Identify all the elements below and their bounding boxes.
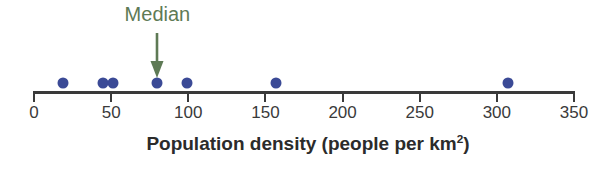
- x-axis-tick: [33, 93, 35, 102]
- x-axis-tick-label: 50: [102, 103, 121, 123]
- x-axis-tick: [342, 93, 344, 102]
- x-axis-tick-label: 350: [560, 103, 588, 123]
- x-axis-title-main: Population density (people per km: [146, 133, 456, 154]
- x-axis-tick: [573, 93, 575, 102]
- down-arrow-icon: [149, 33, 165, 79]
- x-axis-tick-label: 100: [174, 103, 202, 123]
- x-axis-tick: [496, 93, 498, 102]
- data-point: [502, 78, 513, 89]
- x-axis-tick-label: 0: [29, 103, 38, 123]
- median-label: Median: [125, 3, 191, 26]
- x-axis-tick-label: 300: [483, 103, 511, 123]
- x-axis-tick: [264, 93, 266, 102]
- data-point: [271, 78, 282, 89]
- x-axis-line: [33, 91, 575, 94]
- x-axis-tick-label: 200: [328, 103, 356, 123]
- data-point: [181, 78, 192, 89]
- x-axis-tick: [187, 93, 189, 102]
- x-axis-title-tail: ): [463, 133, 469, 154]
- data-point: [107, 78, 118, 89]
- x-axis-tick-label: 250: [406, 103, 434, 123]
- x-axis-title: Population density (people per km2): [0, 133, 616, 155]
- x-axis-tick: [419, 93, 421, 102]
- x-axis-tick: [110, 93, 112, 102]
- data-point: [152, 78, 163, 89]
- dot-plot-figure: 050100150200250300350 Median Population …: [0, 0, 616, 170]
- x-axis-tick-label: 150: [251, 103, 279, 123]
- data-point: [58, 78, 69, 89]
